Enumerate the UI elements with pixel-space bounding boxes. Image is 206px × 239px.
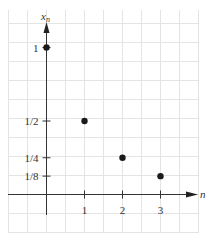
x-tick-label: 3: [158, 204, 164, 216]
data-point: [157, 173, 163, 179]
data-point: [43, 44, 49, 50]
y-tick-label: 1/8: [24, 170, 39, 182]
y-tick-label: 1: [33, 42, 39, 54]
data-point: [81, 118, 87, 124]
x-axis-label: n: [200, 188, 206, 200]
x-tick-label: 2: [120, 204, 126, 216]
data-point: [119, 155, 125, 161]
ticks: 12311/21/41/8: [24, 42, 163, 216]
sequence-plot: 12311/21/41/8 xn n: [0, 0, 206, 239]
y-tick-label: 1/2: [24, 115, 38, 127]
y-axis-label: xn: [40, 10, 50, 24]
x-tick-label: 1: [82, 204, 88, 216]
x-axis-arrow-icon: [186, 192, 198, 198]
y-tick-label: 1/4: [24, 152, 39, 164]
